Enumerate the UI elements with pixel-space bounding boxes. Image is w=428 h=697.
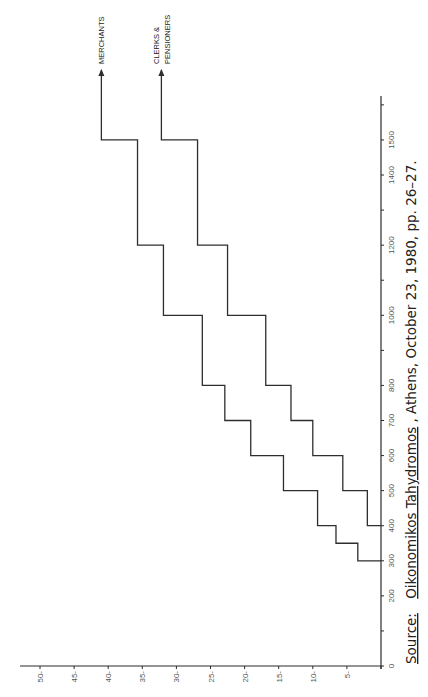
arrow-up-icon — [98, 69, 104, 76]
percent-tick-label: 20- — [241, 671, 250, 683]
income-tick-label: 1000 — [387, 306, 396, 324]
source-prefix: Source: — [403, 613, 419, 664]
arrow-up-icon — [158, 69, 164, 76]
income-tick-label: 0 — [387, 663, 396, 668]
svg-text:Source: Oikonomikos Tahy: Source: Oikonomikos Tahydromos , Athens,… — [403, 160, 419, 664]
series-label: CLERKS & — [152, 27, 161, 64]
income-tick-label: 1500 — [387, 131, 396, 149]
percent-tick-label: 35- — [138, 671, 147, 683]
series-lines — [98, 69, 381, 561]
percent-tick-label: 50- — [36, 671, 45, 683]
income-tick-label: 400 — [387, 519, 396, 533]
income-tick-label: 200 — [387, 589, 396, 603]
series-clerks-pensioners-line — [161, 70, 381, 526]
series-label: PENSIONERS — [163, 15, 172, 64]
percent-tick-label: 15- — [275, 671, 284, 683]
source-publication: Oikonomikos Tahydromos — [403, 427, 419, 599]
percent-tick-label: 30- — [172, 671, 181, 683]
income-tick-label: 500 — [387, 483, 396, 497]
income-tick-label: 300 — [387, 554, 396, 568]
source-details: , Athens, October 23, 1980, pp. 26–27. — [403, 160, 419, 422]
income-tick-label: 1200 — [387, 236, 396, 254]
series-label: MERCHANTS — [97, 16, 106, 64]
income-tick-label: 600 — [387, 448, 396, 462]
income-tick-label: 800 — [387, 378, 396, 392]
percent-tick-label: 25- — [207, 671, 216, 683]
income-tick-label: 700 — [387, 413, 396, 427]
percent-tick-label: 40- — [104, 671, 113, 683]
percent-tick-label: 45- — [70, 671, 79, 683]
income-tick-label: 1400 — [387, 166, 396, 184]
percent-tick-label: 5- — [343, 671, 352, 678]
percent-tick-label: 10- — [309, 671, 318, 683]
source-caption: Source: Oikonomikos Tahydromos , Athens,… — [403, 160, 419, 664]
series-labels: MERCHANTSCLERKS &PENSIONERS — [97, 15, 172, 64]
step-chart: 5-10-15-20-25-30-35-40-45-50-02003004005… — [0, 0, 428, 697]
axes: 5-10-15-20-25-30-35-40-45-50-02003004005… — [20, 96, 396, 683]
